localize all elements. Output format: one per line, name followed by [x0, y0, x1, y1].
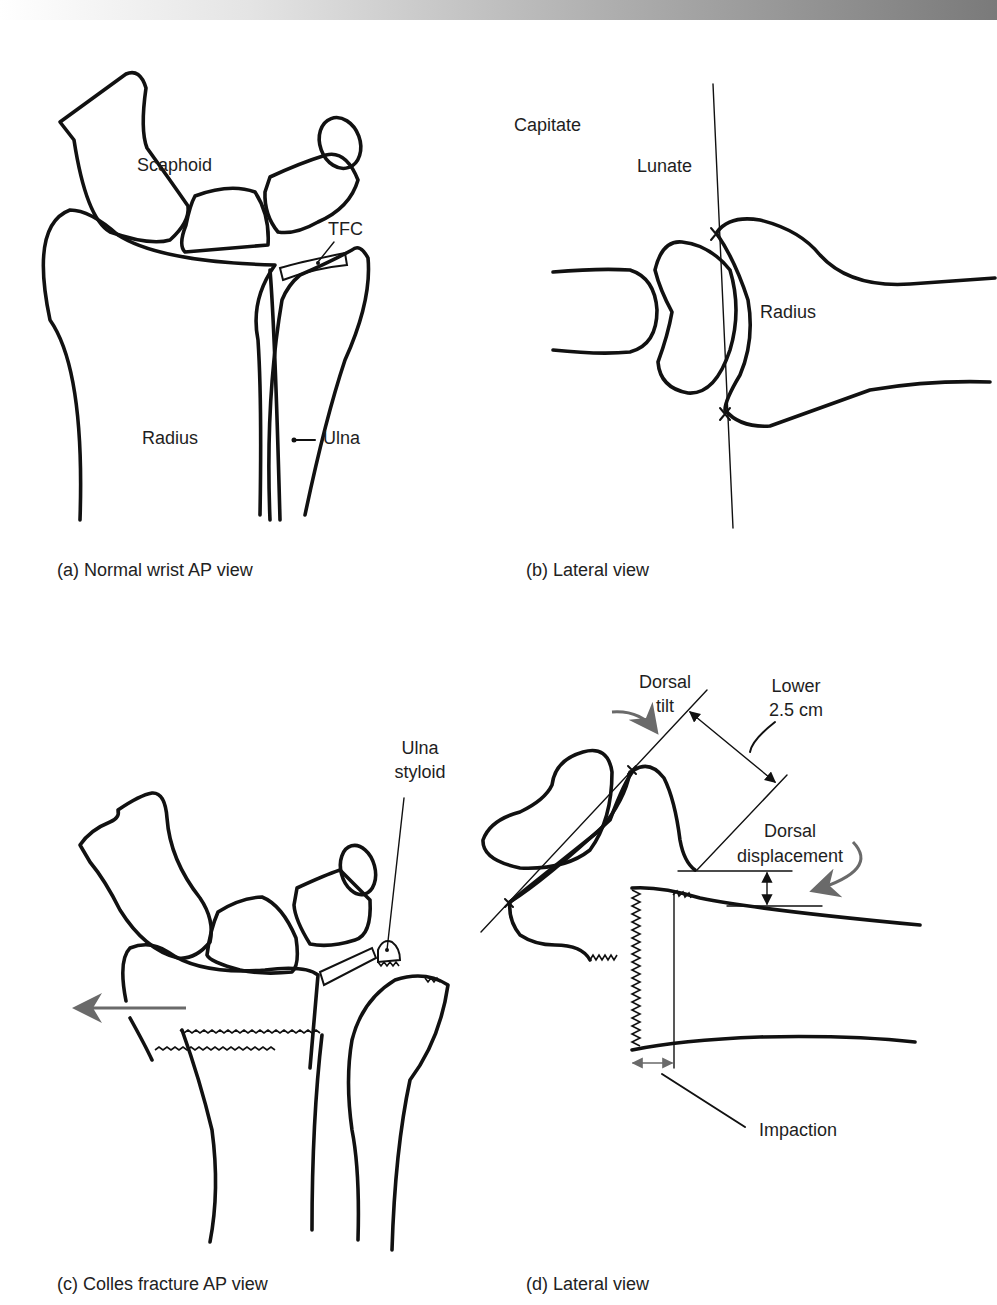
label-dorsal-tilt-line2: tilt — [656, 696, 674, 717]
impaction-zigzag — [632, 890, 640, 1046]
label-dorsal-displacement-line1: Dorsal — [764, 821, 816, 842]
label-impaction: Impaction — [759, 1120, 837, 1141]
fracture-line-upper — [180, 1030, 320, 1033]
caption-panel-a: (a) Normal wrist AP view — [57, 560, 253, 581]
label-ulna: Ulna — [323, 428, 360, 449]
label-dorsal-tilt-line1: Dorsal — [639, 672, 691, 693]
triquetrum-bone-c — [294, 870, 370, 945]
label-capitate: Capitate — [514, 115, 581, 136]
ulna-bone-c — [349, 976, 449, 1250]
dorsal-tilt-arrow — [612, 712, 655, 730]
label-radius-b: Radius — [760, 302, 816, 323]
radius-bone-a — [43, 210, 275, 520]
lunate-bone — [182, 188, 269, 252]
capitate-bone — [553, 269, 657, 353]
panel-c-drawing — [78, 793, 448, 1250]
label-lower-line1: Lower — [771, 676, 820, 697]
label-scaphoid: Scaphoid — [137, 155, 212, 176]
label-lower-line2: 2.5 cm — [769, 700, 823, 721]
caption-panel-b: (b) Lateral view — [526, 560, 649, 581]
label-lunate: Lunate — [637, 156, 692, 177]
radial-axis-line — [713, 84, 733, 528]
label-dorsal-displacement-line2: displacement — [737, 846, 843, 867]
radius-bone-b — [717, 219, 995, 285]
caption-panel-d: (d) Lateral view — [526, 1274, 649, 1295]
ulna-bone-a — [269, 248, 369, 520]
pisiform-bone — [312, 112, 367, 175]
scaphoid-bone-c — [80, 793, 211, 958]
wrist-fracture-figure — [0, 0, 997, 1305]
panel-a-drawing — [43, 73, 368, 520]
caption-panel-c: (c) Colles fracture AP view — [57, 1274, 268, 1295]
dorsal-tilt-line — [481, 690, 707, 932]
label-tfc: TFC — [328, 219, 363, 240]
panel-d-drawing — [481, 690, 920, 1127]
fracture-line-lower — [155, 1047, 275, 1050]
label-radius-a: Radius — [142, 428, 198, 449]
lunate-bone-d — [483, 751, 612, 869]
lunate-bone-c — [207, 897, 297, 973]
label-ulna-styloid-line2: styloid — [394, 762, 445, 783]
label-ulna-styloid-line1: Ulna — [401, 738, 438, 759]
